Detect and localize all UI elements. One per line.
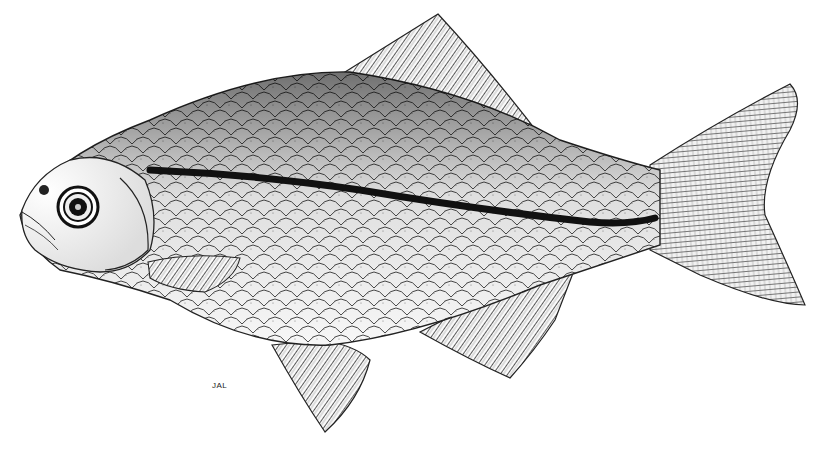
eye-icon — [58, 187, 98, 227]
artist-signature: JAL — [212, 381, 227, 390]
caudal-fin — [650, 84, 805, 305]
fish-illustration — [0, 0, 821, 454]
pelvic-fin — [272, 340, 370, 432]
nostril — [39, 185, 49, 195]
